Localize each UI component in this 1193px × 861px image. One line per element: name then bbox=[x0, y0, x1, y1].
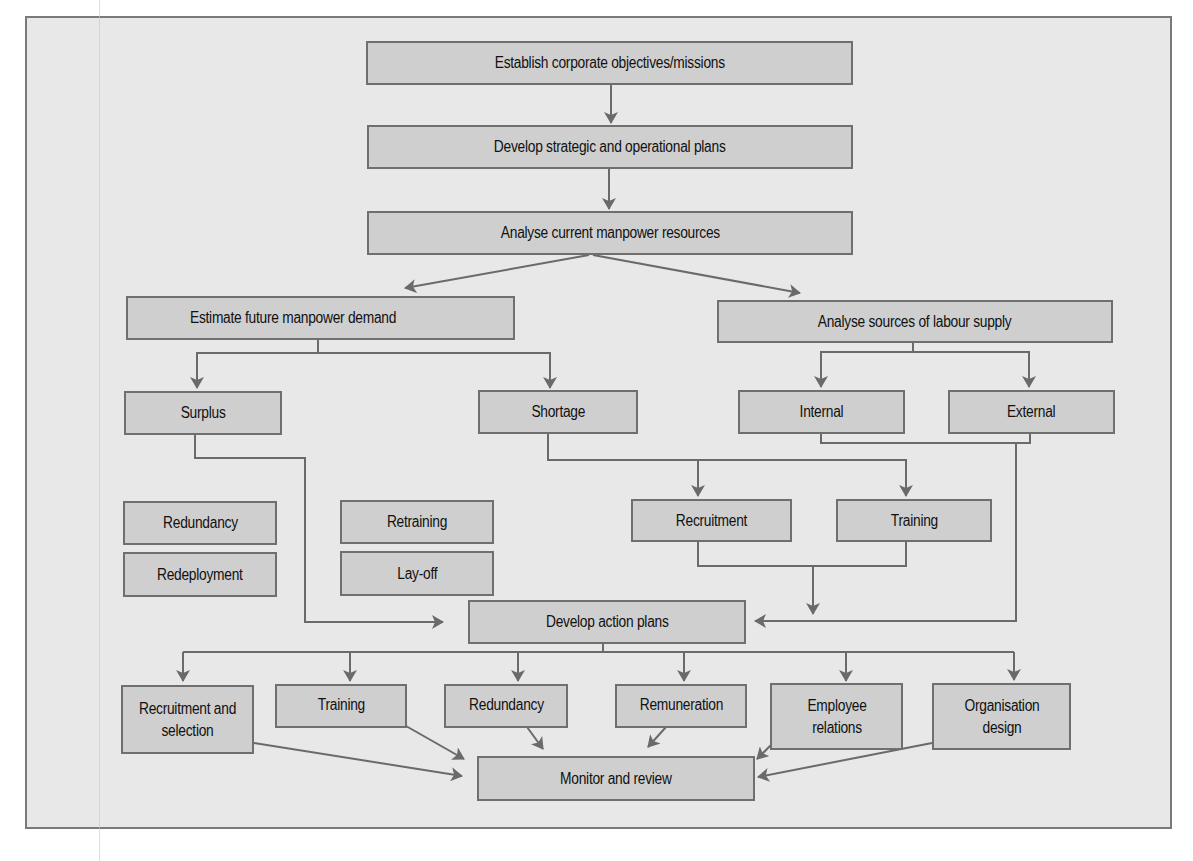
output-recruitment-selection: Recruitment and selection bbox=[121, 685, 254, 754]
option-layoff: Lay-off bbox=[340, 551, 494, 596]
output-employee-relations: Employee relations bbox=[770, 683, 903, 750]
node-label: Redundancy bbox=[469, 694, 544, 716]
node-label: Establish corporate objectives/missions bbox=[494, 52, 724, 74]
node-label: Training bbox=[890, 510, 937, 532]
node-label: Internal bbox=[800, 401, 844, 423]
node-label: Remuneration bbox=[639, 694, 722, 716]
node-external: External bbox=[948, 390, 1115, 434]
output-training: Training bbox=[275, 684, 407, 728]
node-estimate-demand: Estimate future manpower demand bbox=[126, 296, 515, 340]
node-shortage: Shortage bbox=[478, 390, 638, 434]
node-surplus: Surplus bbox=[124, 391, 282, 435]
node-internal: Internal bbox=[738, 390, 905, 434]
node-analyse-current-manpower: Analyse current manpower resources bbox=[367, 211, 853, 255]
node-monitor-review: Monitor and review bbox=[477, 756, 755, 801]
option-redeployment: Redeployment bbox=[123, 552, 277, 597]
node-label: External bbox=[1007, 401, 1055, 423]
node-label: Develop strategic and operational plans bbox=[494, 136, 726, 158]
node-label: Redundancy bbox=[163, 512, 238, 534]
output-remuneration: Remuneration bbox=[615, 684, 747, 728]
node-label: Develop action plans bbox=[546, 611, 669, 633]
node-label: Monitor and review bbox=[560, 768, 672, 790]
node-label: Analyse current manpower resources bbox=[500, 222, 719, 244]
output-redundancy: Redundancy bbox=[444, 684, 568, 728]
node-label: Shortage bbox=[531, 401, 585, 423]
node-develop-action-plans: Develop action plans bbox=[468, 600, 746, 644]
node-label: Recruitment bbox=[676, 510, 747, 532]
option-retraining: Retraining bbox=[340, 500, 494, 544]
node-establish-objectives: Establish corporate objectives/missions bbox=[366, 41, 853, 85]
option-redundancy: Redundancy bbox=[123, 501, 277, 545]
node-develop-plans: Develop strategic and operational plans bbox=[367, 125, 853, 169]
node-labour-supply: Analyse sources of labour supply bbox=[717, 300, 1113, 343]
node-label: Training bbox=[317, 694, 364, 716]
node-label: Redeployment bbox=[157, 564, 243, 586]
node-label: Retraining bbox=[387, 511, 447, 533]
node-training: Training bbox=[836, 499, 992, 542]
node-label: Organisation design bbox=[959, 695, 1045, 739]
node-label: Estimate future manpower demand bbox=[190, 307, 396, 329]
node-label: Employee relations bbox=[798, 695, 875, 739]
node-recruitment: Recruitment bbox=[631, 499, 792, 542]
node-label: Recruitment and selection bbox=[132, 698, 243, 742]
node-label: Lay-off bbox=[397, 563, 437, 585]
output-organisation-design: Organisation design bbox=[932, 683, 1071, 750]
node-label: Surplus bbox=[181, 402, 226, 424]
node-label: Analyse sources of labour supply bbox=[818, 311, 1012, 333]
